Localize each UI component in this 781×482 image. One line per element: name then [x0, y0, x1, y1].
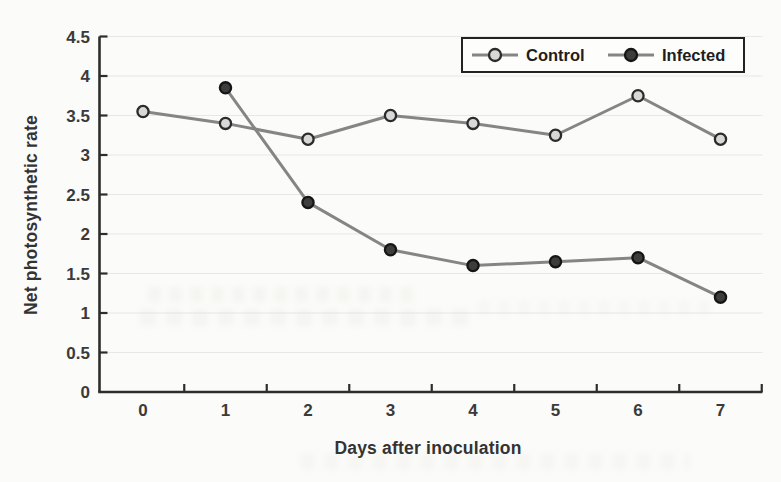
- control-data-point-marker: [302, 134, 313, 145]
- control-legend-marker: [489, 49, 501, 61]
- y-tick-label: 3.5: [66, 107, 90, 126]
- legend-label: Control: [526, 46, 585, 64]
- y-tick-label: 4: [81, 67, 91, 86]
- y-tick-label: 1.5: [66, 265, 90, 284]
- infected-data-point-marker: [385, 244, 396, 255]
- legend-label: Infected: [662, 46, 725, 64]
- y-tick-label: 3: [81, 146, 90, 165]
- x-tick-label: 4: [468, 401, 478, 420]
- x-tick-label: 5: [551, 401, 560, 420]
- infected-data-point-marker: [550, 256, 561, 267]
- control-data-point-marker: [467, 118, 478, 129]
- figure: 00.511.522.533.544.501234567ControlInfec…: [0, 0, 781, 482]
- y-tick-label: 0: [81, 383, 90, 402]
- control-data-point-marker: [137, 106, 148, 117]
- infected-data-point-marker: [220, 82, 231, 93]
- y-tick-label: 2.5: [66, 186, 90, 205]
- legend: ControlInfected: [462, 38, 744, 72]
- y-axis-title: Net photosynthetic rate: [21, 115, 42, 315]
- y-tick-label: 4.5: [66, 28, 90, 47]
- infected-data-point-marker: [302, 197, 313, 208]
- y-tick-label: 1: [81, 304, 90, 323]
- control-data-point-marker: [220, 118, 231, 129]
- x-tick-label: 3: [386, 401, 395, 420]
- control-series-line: [143, 96, 721, 139]
- y-tick-label: 0.5: [66, 344, 90, 363]
- x-axis-title: Days after inoculation: [334, 438, 521, 459]
- infected-data-point-marker: [632, 252, 643, 263]
- x-tick-label: 1: [221, 401, 230, 420]
- control-data-point-marker: [632, 90, 643, 101]
- x-tick-label: 6: [633, 401, 642, 420]
- infected-data-point-marker: [715, 292, 726, 303]
- control-data-point-marker: [550, 130, 561, 141]
- y-tick-label: 2: [81, 225, 90, 244]
- x-tick-label: 0: [138, 401, 147, 420]
- infected-legend-marker: [625, 49, 637, 61]
- control-data-point-marker: [715, 134, 726, 145]
- x-tick-label: 7: [716, 401, 725, 420]
- infected-data-point-marker: [467, 260, 478, 271]
- control-data-point-marker: [385, 110, 396, 121]
- x-tick-label: 2: [303, 401, 312, 420]
- line-chart: 00.511.522.533.544.501234567ControlInfec…: [0, 0, 781, 482]
